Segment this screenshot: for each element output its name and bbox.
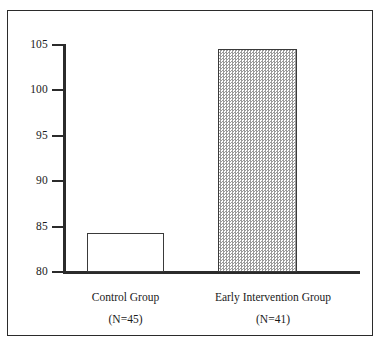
x-axis-sublabel-control-group: (N=45) (65, 312, 186, 326)
y-axis-tick-label-95: 95 (4, 130, 48, 142)
x-axis-label-early-intervention-group: Early Intervention Group (186, 290, 360, 304)
x-axis-sublabel-early-intervention-group: (N=41) (186, 312, 360, 326)
y-axis-tick-mark-100 (52, 89, 64, 91)
y-axis-tick-mark-90 (52, 180, 64, 182)
y-axis-line (63, 44, 66, 274)
bar-early-intervention-group[interactable] (218, 49, 297, 272)
y-axis-tick-mark-95 (52, 135, 64, 137)
y-axis-tick-mark-80 (52, 271, 64, 273)
plot-area: 105 100 95 90 85 80 Control Group (N=45) (0, 0, 383, 345)
y-axis-tick-label-80: 80 (4, 266, 48, 278)
bar-control-group[interactable] (87, 233, 164, 272)
x-axis-label-control-group: Control Group (65, 290, 186, 304)
y-axis-tick-mark-85 (52, 226, 64, 228)
y-axis-tick-label-90: 90 (4, 175, 48, 187)
y-axis-tick-label-100: 100 (4, 84, 48, 96)
figure-container: 105 100 95 90 85 80 Control Group (N=45) (0, 0, 383, 345)
y-axis-tick-mark-105 (52, 44, 64, 46)
y-axis-tick-label-85: 85 (4, 221, 48, 233)
y-axis-tick-label-105: 105 (4, 39, 48, 51)
